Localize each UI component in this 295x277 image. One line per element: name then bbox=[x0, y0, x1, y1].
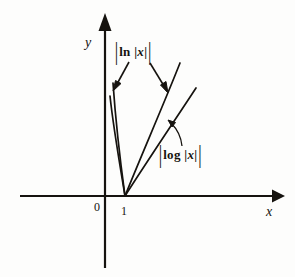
x-tick-label-one: 1 bbox=[121, 205, 127, 217]
ln-outer-bar-right: | bbox=[147, 39, 152, 64]
log-outer-bar-left: | bbox=[158, 142, 163, 167]
arrow-to-ln-left-shaft bbox=[117, 62, 129, 84]
ln-outer-bar-left: | bbox=[114, 39, 119, 64]
arrow-to-ln-right-shaft bbox=[150, 63, 164, 86]
curve-ln-left-outer bbox=[113, 83, 125, 196]
curve-label-log: |log |x|| bbox=[158, 148, 203, 161]
log-function-name: log bbox=[163, 147, 181, 162]
log-outer-bar-right: | bbox=[197, 142, 202, 167]
x-axis-label: x bbox=[266, 205, 272, 219]
annotation-arrows-group bbox=[113, 62, 182, 146]
x-axis-arrowhead bbox=[272, 190, 285, 203]
curve-ln-left-inner bbox=[110, 96, 125, 196]
curve-label-ln: |ln |x|| bbox=[114, 45, 153, 58]
curves-group bbox=[110, 63, 196, 196]
curve-ln-right bbox=[125, 63, 180, 196]
y-axis-arrowhead bbox=[99, 13, 112, 31]
origin-label: 0 bbox=[94, 201, 100, 213]
y-axis-label: y bbox=[85, 36, 91, 50]
arrow-to-ln-left-head bbox=[113, 81, 121, 92]
ln-function-name: ln bbox=[119, 44, 130, 59]
